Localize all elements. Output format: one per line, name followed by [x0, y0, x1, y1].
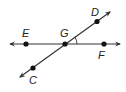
label-d: D: [91, 6, 99, 18]
label-g: G: [60, 27, 69, 39]
label-f: F: [98, 49, 106, 61]
label-e: E: [22, 27, 30, 39]
intersecting-lines-diagram: E G F D C: [0, 0, 126, 92]
point-f: [101, 41, 106, 46]
point-e: [23, 41, 28, 46]
label-c: C: [29, 74, 37, 86]
point-c: [30, 65, 35, 70]
point-d: [94, 19, 99, 24]
point-g: [62, 41, 67, 46]
angle-arc-fgd: [75, 37, 77, 44]
